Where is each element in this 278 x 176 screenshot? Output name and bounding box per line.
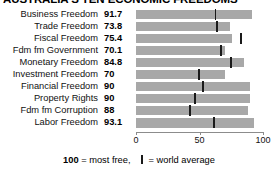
world-average-tick — [194, 93, 196, 104]
bar-row: Monetary Freedom84.8 — [0, 57, 278, 69]
bar-track — [136, 118, 263, 128]
world-average-tick — [215, 9, 217, 20]
bar-row: Labor Freedom93.1 — [0, 117, 278, 129]
bar-row-value: 90 — [104, 93, 130, 104]
world-average-tick — [213, 117, 215, 128]
bar-row-value: 91.7 — [104, 9, 130, 20]
world-average-tick — [230, 57, 232, 68]
bar-track — [136, 10, 263, 20]
world-average-tick — [202, 81, 204, 92]
bar-fill — [136, 34, 232, 44]
bar-track — [136, 58, 263, 68]
legend-scale-value: 100 — [63, 155, 79, 165]
world-average-tick — [189, 105, 191, 116]
bar-row-label: Fdm fm Corruption — [0, 105, 98, 116]
bar-row: Investment Freedom70 — [0, 69, 278, 81]
bar-row-label: Business Freedom — [0, 9, 98, 20]
bar-track — [136, 82, 263, 92]
bar-track — [136, 46, 263, 56]
bar-fill — [136, 106, 248, 116]
bar-row-label: Financial Freedom — [0, 81, 98, 92]
bar-row-label: Fdm fm Government — [0, 45, 98, 56]
bar-fill — [136, 58, 244, 68]
chart-title: AUSTRALIA'S TEN ECONOMIC FREEDOMS — [3, 0, 275, 5]
bar-row-label: Monetary Freedom — [0, 57, 98, 68]
bar-fill — [136, 82, 250, 92]
bar-row: Fdm fm Corruption88 — [0, 105, 278, 117]
world-average-tick — [216, 21, 218, 32]
bar-row-value: 90 — [104, 81, 130, 92]
bar-row-value: 70.1 — [104, 45, 130, 56]
bar-row: Fiscal Freedom75.4 — [0, 33, 278, 45]
bar-row: Financial Freedom90 — [0, 81, 278, 93]
bar-fill — [136, 94, 250, 104]
bar-row-value: 73.8 — [104, 21, 130, 32]
legend-scale-text: = most free, — [81, 155, 130, 165]
bar-row-value: 93.1 — [104, 117, 130, 128]
bar-row-label: Fiscal Freedom — [0, 33, 98, 44]
bar-row: Business Freedom91.7 — [0, 9, 278, 21]
bar-row-value: 84.8 — [104, 57, 130, 68]
bar-fill — [136, 46, 225, 56]
bar-rows: Business Freedom91.7Trade Freedom73.8Fis… — [0, 9, 278, 129]
bar-row-value: 70 — [104, 69, 130, 80]
bar-row-value: 75.4 — [104, 33, 130, 44]
bar-fill — [136, 118, 254, 128]
world-average-mark-icon — [141, 155, 143, 164]
bar-row: Fdm fm Government70.1 — [0, 45, 278, 57]
bar-row: Property Rights90 — [0, 93, 278, 105]
economic-freedoms-bar-chart: AUSTRALIA'S TEN ECONOMIC FREEDOMS Busine… — [0, 0, 278, 176]
x-axis-tick-label: 100 — [248, 135, 278, 145]
bar-track — [136, 94, 263, 104]
bar-track — [136, 34, 263, 44]
world-average-tick — [240, 33, 242, 44]
bar-track — [136, 70, 263, 80]
bar-row-label: Labor Freedom — [0, 117, 98, 128]
x-axis-tick-label: 50 — [185, 135, 215, 145]
bar-track — [136, 22, 263, 32]
bar-fill — [136, 70, 225, 80]
legend-mark-text: = world average — [149, 155, 215, 165]
bar-row-label: Property Rights — [0, 93, 98, 104]
bar-row-label: Investment Freedom — [0, 69, 98, 80]
bar-row-label: Trade Freedom — [0, 21, 98, 32]
world-average-tick — [220, 45, 222, 56]
bar-fill — [136, 10, 252, 20]
bar-row: Trade Freedom73.8 — [0, 21, 278, 33]
bar-row-value: 88 — [104, 105, 130, 116]
world-average-tick — [198, 69, 200, 80]
bar-track — [136, 106, 263, 116]
chart-legend: 100 = most free, = world average — [0, 155, 278, 165]
x-axis-tick-label: 0 — [121, 135, 151, 145]
